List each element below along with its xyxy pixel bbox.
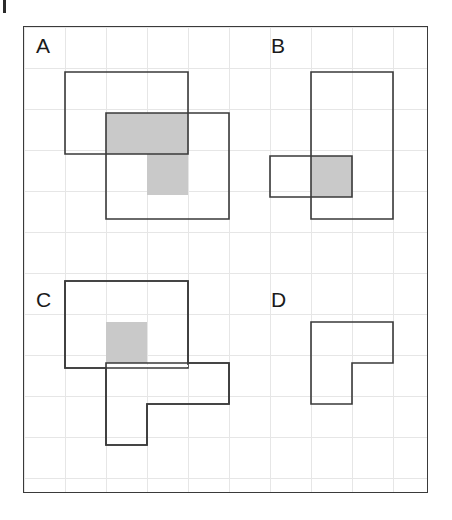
panel-label-d: D [271,289,286,310]
shape-d-l-shape [311,322,393,404]
shape-d-outline [24,27,429,494]
panel-label-b: B [271,35,285,56]
figure-stage: A B C D [0,0,452,520]
panel-label-a: A [36,35,50,56]
figures-layer: A B C D [24,27,427,492]
corner-tick-mark [3,0,6,13]
panel-label-c: C [36,289,51,310]
puzzle-panel: A B C D [23,26,428,493]
